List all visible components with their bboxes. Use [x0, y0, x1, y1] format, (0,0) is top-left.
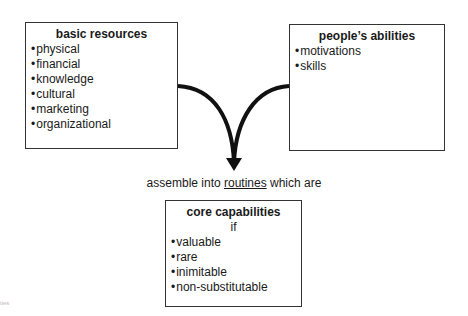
list-item: motivations — [295, 44, 444, 59]
list-item: knowledge — [31, 72, 177, 87]
caption-after: which are — [267, 176, 322, 190]
basic-resources-list: physical financial knowledge cultural ma… — [31, 42, 177, 132]
list-item: rare — [171, 250, 301, 265]
basic-resources-title: basic resources — [31, 27, 177, 41]
peoples-abilities-box: people’s abilities motivations skills — [289, 24, 445, 151]
basic-resources-box: basic resources physical financial knowl… — [25, 22, 178, 149]
arrowhead-icon — [226, 158, 242, 171]
list-item: cultural — [31, 87, 177, 102]
left-curved-arrow — [178, 86, 234, 162]
peoples-abilities-title: people’s abilities — [295, 29, 444, 43]
list-item: valuable — [171, 235, 301, 250]
list-item: physical — [31, 42, 177, 57]
list-item: marketing — [31, 102, 177, 117]
core-capabilities-title: core capabilities — [171, 205, 301, 219]
core-capabilities-list: valuable rare inimitable non-substitutab… — [171, 235, 301, 295]
list-item: non-substitutable — [171, 280, 301, 295]
list-item: organizational — [31, 117, 177, 132]
core-capabilities-condition: if — [171, 220, 301, 235]
connector-caption: assemble into routines which are — [0, 176, 468, 190]
peoples-abilities-list: motivations skills — [295, 44, 444, 74]
right-curved-arrow — [234, 86, 289, 162]
list-item: inimitable — [171, 265, 301, 280]
corner-text-fragment: ties — [0, 300, 9, 306]
caption-routines: routines — [224, 176, 267, 190]
core-capabilities-box: core capabilities if valuable rare inimi… — [165, 200, 302, 307]
list-item: skills — [295, 59, 444, 74]
list-item: financial — [31, 57, 177, 72]
caption-before: assemble into — [147, 176, 224, 190]
